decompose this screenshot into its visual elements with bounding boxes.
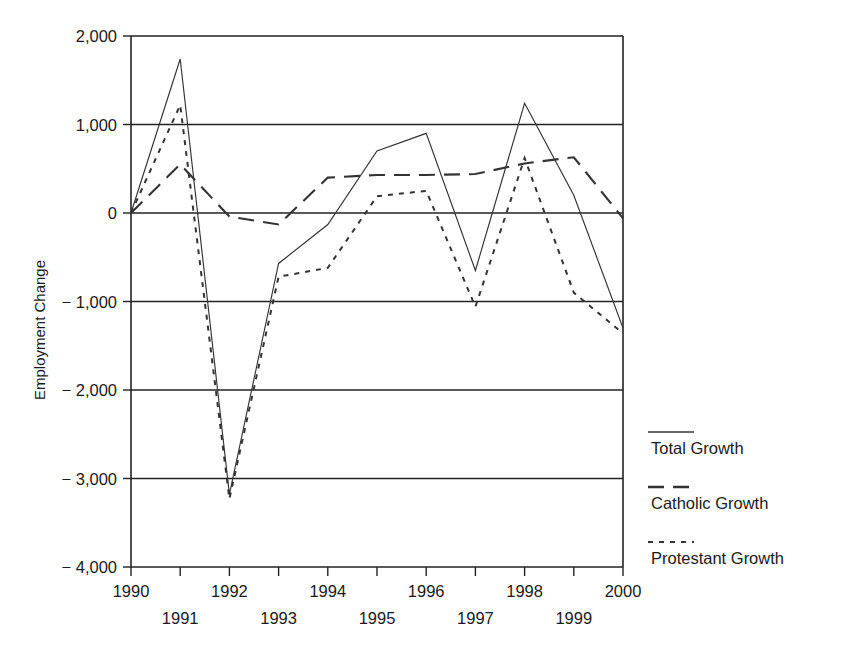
chart-legend: Total GrowthCatholic GrowthProtestant Gr… (648, 432, 784, 567)
x-tick-label: 1991 (162, 609, 199, 627)
y-tick-label: 1,000 (76, 116, 117, 134)
x-tick-label: 2000 (605, 582, 642, 600)
x-tick-label: 1990 (113, 582, 150, 600)
y-tick-label: − 1,000 (61, 293, 117, 311)
chart-figure: 2,0001,0000− 1,000− 2,000− 3,000− 4,000 … (0, 0, 841, 645)
x-tick-label: 1994 (309, 582, 346, 600)
x-tick-label: 1999 (555, 609, 592, 627)
y-tick-label: 0 (108, 204, 117, 222)
y-tick-label: − 4,000 (61, 558, 117, 576)
employment-change-line-chart: 2,0001,0000− 1,000− 2,000− 3,000− 4,000 … (0, 0, 841, 645)
y-tick-label: 2,000 (76, 27, 117, 45)
x-tick-label: 1998 (506, 582, 543, 600)
x-tick-label: 1993 (260, 609, 297, 627)
x-tick-label: 1996 (408, 582, 445, 600)
x-tick-label: 1997 (457, 609, 494, 627)
legend-label: Total Growth (651, 439, 744, 457)
x-tick-label: 1995 (359, 609, 396, 627)
x-axis-ticks: 1990199119921993199419951996199719981999… (113, 567, 642, 627)
legend-label: Protestant Growth (651, 549, 784, 567)
y-axis-title: Employment Change (31, 260, 48, 400)
y-tick-label: − 3,000 (61, 470, 117, 488)
series-line-catholic-growth (131, 157, 623, 224)
legend-label: Catholic Growth (651, 494, 768, 512)
gridlines (131, 36, 623, 479)
x-tick-label: 1992 (211, 582, 248, 600)
y-tick-label: − 2,000 (61, 381, 117, 399)
y-axis-ticks: 2,0001,0000− 1,000− 2,000− 3,000− 4,000 (61, 27, 131, 576)
